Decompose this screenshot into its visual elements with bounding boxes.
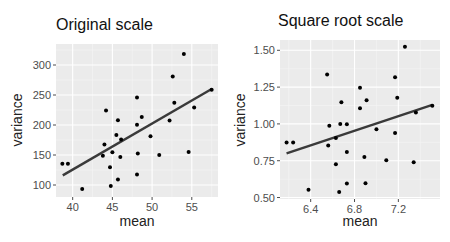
data-point	[285, 140, 289, 144]
y-tick-label: 1.25	[254, 81, 275, 93]
data-point	[337, 190, 341, 194]
data-point	[358, 106, 362, 110]
y-tick-label: 0.75	[254, 155, 275, 167]
chart-title: Square root scale	[278, 12, 403, 30]
data-point	[430, 104, 434, 108]
data-point	[403, 45, 407, 49]
data-point	[306, 188, 310, 192]
x-tick-label: 7.2	[391, 203, 406, 215]
y-axis-label: variance	[232, 90, 248, 150]
data-point	[291, 140, 295, 144]
data-point	[363, 181, 367, 185]
data-point	[414, 111, 418, 115]
data-point	[384, 158, 388, 162]
chart-square-root-scale: 6.46.87.20.500.751.001.251.50 Square roo…	[0, 0, 225, 242]
data-point	[345, 122, 349, 126]
y-tick-label: 1.00	[254, 118, 275, 130]
plot-square-root-scale: 6.46.87.20.500.751.001.251.50	[0, 0, 450, 242]
data-point	[326, 144, 330, 148]
data-point	[327, 124, 331, 128]
y-tick-label: 1.50	[254, 44, 275, 56]
data-point	[393, 75, 397, 79]
data-point	[334, 162, 338, 166]
data-point	[362, 155, 366, 159]
y-tick-label: 0.50	[254, 192, 275, 204]
data-point	[345, 182, 349, 186]
data-point	[325, 72, 329, 76]
data-point	[395, 96, 399, 100]
data-point	[334, 136, 338, 140]
plot-panel	[280, 40, 440, 199]
data-point	[393, 131, 397, 135]
data-point	[339, 100, 343, 104]
data-point	[358, 86, 362, 90]
x-tick-label: 6.4	[303, 203, 318, 215]
data-point	[412, 160, 416, 164]
data-point	[338, 122, 342, 126]
data-point	[374, 127, 378, 131]
data-point	[365, 98, 369, 102]
x-axis-label: mean	[330, 213, 390, 229]
data-point	[345, 150, 349, 154]
